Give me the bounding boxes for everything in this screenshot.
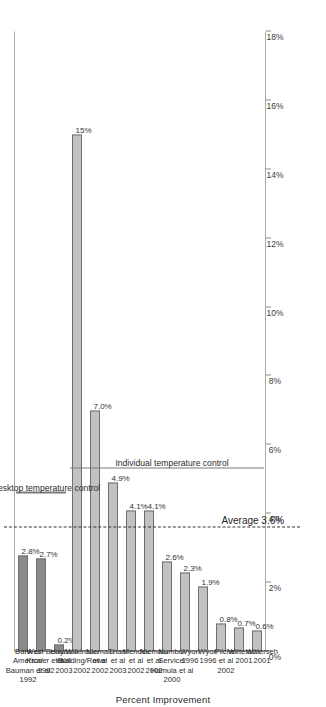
bar-item[interactable]: 2.3%Wyon1996 [180, 31, 191, 651]
axis-tick-label: 16% [266, 100, 283, 110]
bar-item[interactable]: 4.1%Mendellet al2002 [126, 31, 137, 651]
bar-value-label: 0.6% [255, 622, 273, 631]
category-label-line: 2000 [128, 673, 216, 682]
bar-item[interactable]: 15%WilkinsonBuilding/Rowe2002 [72, 31, 83, 651]
average-line [4, 526, 300, 527]
chart-canvas: Percent Improvement 0%2%4%6%8%10%12%14%1… [0, 0, 326, 707]
bar-item[interactable]: 4.1%Niemalaet al2002 [144, 31, 155, 651]
axis-tick-label: 14% [266, 169, 283, 179]
axis-tick-label: 12% [266, 238, 283, 248]
bar[interactable] [18, 555, 29, 651]
bar[interactable] [144, 510, 155, 651]
bar-series: 2.8%Bank ofAmerica/Bauman et al19922.7%W… [14, 31, 266, 651]
bar[interactable] [162, 561, 173, 651]
bar-item[interactable]: 2.6%NumberService/Hamula et al2000 [162, 31, 173, 651]
bar-item[interactable]: 7.0%Niemalaet al2002 [90, 31, 101, 651]
axis-tick-label: 18% [266, 31, 283, 41]
bar[interactable] [90, 410, 101, 651]
bar-item[interactable]: 0.8%Pilcheret al2002 [216, 31, 227, 651]
axis-tick [266, 306, 271, 307]
axis-tick-label: 10% [266, 307, 283, 317]
bar-item[interactable]: 1.9%Wyon1996 [198, 31, 209, 651]
bar-item[interactable]: 0.6%Witterseh2001 [252, 31, 263, 651]
category-label: Witterseh2001 [218, 646, 306, 665]
group-bracket-label-desktop: Desktop temperature control [0, 482, 100, 492]
category-label-line: 2001 [218, 655, 306, 664]
bar-item[interactable]: 0.2%Hayashiet al2003 [54, 31, 65, 651]
category-label-line: Witterseh [218, 646, 306, 655]
bar[interactable] [126, 510, 137, 651]
category-label-line: 1992 [0, 673, 72, 682]
bar[interactable] [72, 134, 83, 651]
bar-item[interactable]: 2.8%Bank ofAmerica/Bauman et al1992 [18, 31, 29, 651]
bar-item[interactable]: 2.7%West Bend/Kroner et al1992 [36, 31, 47, 651]
bar[interactable] [108, 482, 119, 651]
bar-item[interactable]: 4.9%Thamet al2003 [108, 31, 119, 651]
axis-tick-label: 2% [269, 582, 281, 592]
axis-tick-label: 8% [269, 375, 281, 385]
bar-item[interactable]: 0.7%Witterseh2001 [234, 31, 245, 651]
axis-tick-label: 6% [269, 444, 281, 454]
value-axis-title: Percent Improvement [116, 694, 211, 705]
bar[interactable] [36, 558, 47, 651]
group-bracket-label-individual: Individual temperature control [115, 457, 228, 467]
average-label: Average 3.6% [221, 515, 284, 526]
bar[interactable] [180, 572, 191, 651]
bar[interactable] [198, 586, 209, 651]
plot-area: 0%2%4%6%8%10%12%14%16%18% 2.8%Bank ofAme… [14, 31, 266, 651]
category-label-line: 2002 [182, 664, 270, 673]
